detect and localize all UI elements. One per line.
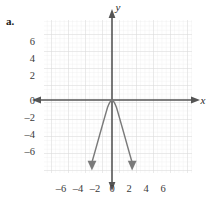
grid-background xyxy=(44,20,192,173)
y-axis-label: y xyxy=(115,1,121,13)
x-tick-labels: –6 –4 –2 0 2 4 6 xyxy=(55,183,166,194)
y-tick-label: –2 xyxy=(24,112,36,123)
y-tick-label: 0 xyxy=(30,95,35,106)
x-tick-label: –6 xyxy=(55,183,67,194)
y-tick-labels: 6 4 2 0 –2 –4 –6 xyxy=(24,36,36,157)
y-tick-label: –4 xyxy=(24,129,36,140)
coordinate-plane: 6 4 2 0 –2 –4 –6 –6 –4 –2 0 2 4 6 y x xyxy=(0,0,208,202)
x-tick-label: 6 xyxy=(160,183,165,194)
y-tick-label: –6 xyxy=(24,146,36,157)
x-tick-label: –4 xyxy=(72,183,84,194)
x-tick-label: 0 xyxy=(109,183,114,194)
x-tick-label: 4 xyxy=(143,183,149,194)
y-tick-label: 6 xyxy=(30,36,35,47)
y-tick-label: 4 xyxy=(30,53,36,64)
x-axis-label: x xyxy=(200,94,206,106)
x-tick-label: 2 xyxy=(126,183,131,194)
figure-panel: a. xyxy=(0,0,208,202)
y-tick-label: 2 xyxy=(30,70,35,81)
x-tick-label: –2 xyxy=(89,183,101,194)
